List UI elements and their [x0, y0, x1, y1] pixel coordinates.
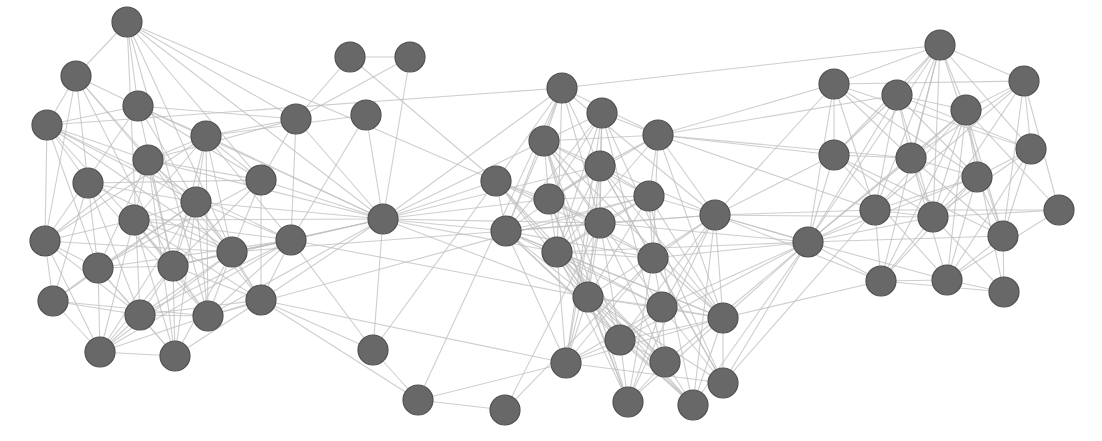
- graph-node-right: [951, 95, 981, 125]
- graph-node-center: [551, 348, 581, 378]
- graph-edge: [662, 242, 808, 307]
- graph-node-center: [708, 303, 738, 333]
- graph-node-right: [1044, 195, 1074, 225]
- graph-node-center: [585, 208, 615, 238]
- graph-node-hub: [368, 204, 398, 234]
- graph-node-right: [962, 162, 992, 192]
- graph-edge: [296, 119, 383, 219]
- graph-node-right: [860, 195, 890, 225]
- graph-node-center: [529, 126, 559, 156]
- graph-node-center: [491, 216, 521, 246]
- graph-node-center: [613, 387, 643, 417]
- graph-node-right: [925, 30, 955, 60]
- graph-edge: [881, 110, 966, 281]
- graph-edge: [291, 119, 296, 240]
- graph-node-right: [819, 140, 849, 170]
- graph-edge: [232, 231, 506, 252]
- graph-edge: [127, 22, 496, 181]
- graph-node-center: [605, 325, 635, 355]
- graph-node-left: [276, 225, 306, 255]
- graph-node-center: [678, 390, 708, 420]
- graph-edge: [373, 219, 383, 350]
- graph-node-left: [119, 205, 149, 235]
- graph-node-left: [191, 121, 221, 151]
- graph-node-bottom: [403, 385, 433, 415]
- graph-node-center: [650, 347, 680, 377]
- graph-node-left: [125, 300, 155, 330]
- graph-node-center: [481, 166, 511, 196]
- graph-edge: [653, 242, 808, 258]
- graph-node-left: [73, 168, 103, 198]
- graph-node-left: [246, 165, 276, 195]
- graph-edge: [658, 135, 834, 155]
- graph-edge: [366, 115, 383, 219]
- graph-node-center: [573, 282, 603, 312]
- graph-node-right: [1009, 66, 1039, 96]
- graph-node-center: [647, 292, 677, 322]
- graph-node-right: [988, 221, 1018, 251]
- graph-node-top: [281, 104, 311, 134]
- graph-edge: [45, 125, 47, 241]
- graph-node-center: [585, 151, 615, 181]
- graph-node-left: [158, 251, 188, 281]
- graph-node-bottom: [490, 395, 520, 425]
- graph-node-hub: [793, 227, 823, 257]
- graph-node-right: [866, 266, 896, 296]
- graph-node-left: [30, 226, 60, 256]
- graph-node-left: [85, 337, 115, 367]
- graph-edge: [383, 181, 496, 219]
- graph-node-center: [634, 181, 664, 211]
- graph-node-center: [700, 200, 730, 230]
- graph-edge: [620, 318, 723, 340]
- graph-node-bottom: [358, 335, 388, 365]
- graph-edge: [76, 76, 88, 183]
- graph-node-center: [542, 237, 572, 267]
- graph-node-left: [133, 145, 163, 175]
- graph-node-right: [896, 143, 926, 173]
- graph-node-right: [989, 277, 1019, 307]
- graph-node-right: [932, 265, 962, 295]
- graph-edge: [418, 363, 566, 400]
- graph-edge: [47, 125, 196, 202]
- graph-edge: [723, 281, 881, 318]
- graph-node-center: [708, 368, 738, 398]
- graph-node-left: [112, 7, 142, 37]
- graph-node-right: [918, 202, 948, 232]
- graph-node-left: [38, 286, 68, 316]
- graph-edge: [834, 81, 1024, 84]
- graph-edge: [715, 210, 875, 215]
- graph-node-left: [217, 237, 247, 267]
- graph-node-center: [643, 120, 673, 150]
- graph-edge: [261, 300, 373, 350]
- graph-node-center: [547, 73, 577, 103]
- graph-node-center: [638, 243, 668, 273]
- graph-node-left: [32, 110, 62, 140]
- graph-node-left: [61, 61, 91, 91]
- graph-node-top: [351, 100, 381, 130]
- network-graph: [0, 0, 1102, 441]
- graph-node-left: [83, 253, 113, 283]
- graph-node-right: [882, 80, 912, 110]
- graph-node-left: [193, 301, 223, 331]
- graph-edge: [715, 155, 834, 215]
- graph-node-left: [181, 187, 211, 217]
- graph-node-left: [246, 285, 276, 315]
- graph-edge: [261, 300, 566, 363]
- graph-node-right: [819, 69, 849, 99]
- graph-node-left: [123, 91, 153, 121]
- graph-node-top: [395, 42, 425, 72]
- graph-edge: [562, 45, 940, 88]
- graph-node-top: [335, 42, 365, 72]
- graph-edge: [291, 240, 373, 350]
- graph-node-right: [1016, 134, 1046, 164]
- graph-node-center: [534, 184, 564, 214]
- graph-node-center: [587, 98, 617, 128]
- graph-edge: [261, 300, 418, 400]
- graph-node-left: [160, 341, 190, 371]
- graph-edge: [662, 215, 715, 307]
